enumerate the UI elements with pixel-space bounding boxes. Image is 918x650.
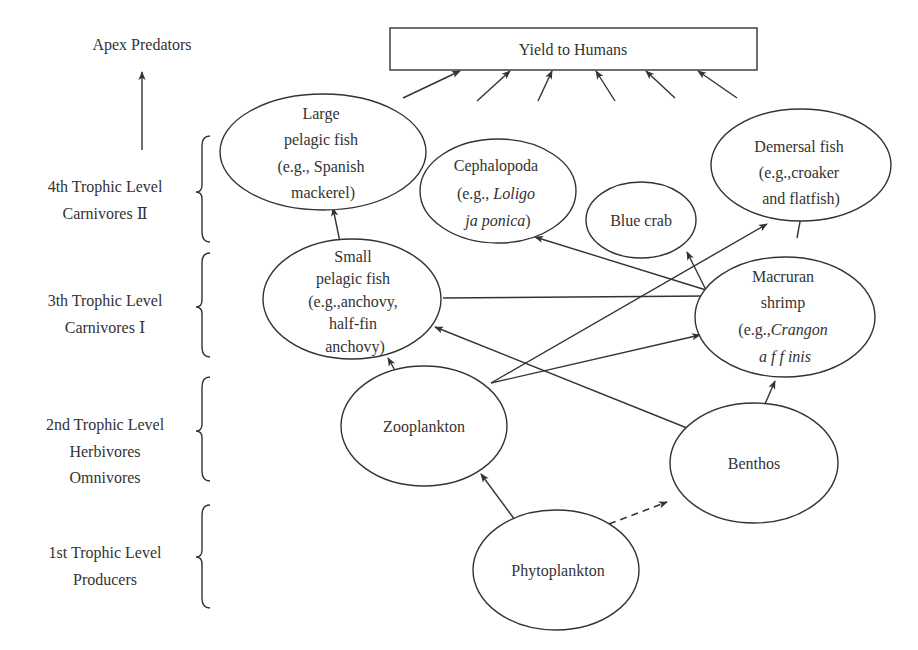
svg-text:2nd Trophic Level: 2nd Trophic Level bbox=[46, 416, 165, 434]
node-benthos: Benthos bbox=[670, 403, 838, 523]
level-brace-1 bbox=[196, 505, 210, 608]
level-brace-3 bbox=[196, 253, 210, 357]
svg-text:Phytoplankton: Phytoplankton bbox=[511, 562, 604, 580]
edge-shrimp-small-line bbox=[443, 296, 707, 298]
yield-label: Yield to Humans bbox=[519, 41, 627, 58]
node-cephalopoda: Cephalopoda (e.g., Loligo ja ponica) bbox=[420, 139, 576, 243]
node-phytoplankton: Phytoplankton bbox=[473, 510, 639, 630]
level-label-1: 1st Trophic Level Producers bbox=[49, 544, 162, 588]
svg-text:Carnivores Ⅱ: Carnivores Ⅱ bbox=[62, 205, 147, 222]
apex-predators-label: Apex Predators bbox=[92, 36, 191, 54]
svg-text:Zooplankton: Zooplankton bbox=[383, 418, 465, 436]
node-macruran-shrimp: Macruran shrimp (e.g.,Crangon a f f inis bbox=[695, 257, 875, 377]
edge-zoo-to-shrimp bbox=[491, 335, 700, 383]
level-brace-4 bbox=[196, 136, 210, 242]
edge-phyto-to-benthos bbox=[609, 502, 667, 524]
svg-text:Herbivores: Herbivores bbox=[69, 443, 140, 460]
node-demersal-fish: Demersal fish (e.g.,croaker and flatfish… bbox=[711, 109, 891, 221]
svg-text:1st Trophic Level: 1st Trophic Level bbox=[49, 544, 162, 562]
node-blue-crab: Blue crab bbox=[586, 182, 696, 258]
level-label-2: 2nd Trophic Level Herbivores Omnivores bbox=[46, 416, 165, 486]
level-label-4: 4th Trophic Level Carnivores Ⅱ bbox=[48, 178, 163, 222]
level-brace-2 bbox=[196, 377, 210, 481]
node-zooplankton: Zooplankton bbox=[341, 366, 507, 486]
svg-text:Cephalopoda (e.g., Lolig: Cephalopoda (e.g., Loligo ja ponica) bbox=[454, 157, 542, 230]
svg-text:4th Trophic Level: 4th Trophic Level bbox=[48, 178, 163, 196]
edge-phyto-to-zoo bbox=[481, 474, 515, 520]
diagram-canvas: Apex Predators Yield to Humans 4th Troph… bbox=[0, 0, 918, 650]
svg-text:Omnivores: Omnivores bbox=[69, 469, 140, 486]
svg-text:Benthos: Benthos bbox=[728, 455, 780, 472]
svg-text:Demersal fish (e.g.,croa: Demersal fish (e.g.,croaker and flatfish… bbox=[754, 138, 847, 208]
node-large-pelagic-fish: Large pelagic fish (e.g., Spanish macker… bbox=[220, 94, 426, 210]
svg-text:3th Trophic Level: 3th Trophic Level bbox=[48, 292, 163, 310]
edge-benthos-to-shrimp bbox=[765, 381, 775, 404]
food-web-diagram: Apex Predators Yield to Humans 4th Troph… bbox=[0, 0, 918, 650]
yield-arrows bbox=[403, 71, 737, 101]
yield-to-humans-box: Yield to Humans bbox=[390, 28, 757, 70]
svg-text:Carnivores Ⅰ: Carnivores Ⅰ bbox=[65, 319, 146, 336]
level-label-3: 3th Trophic Level Carnivores Ⅰ bbox=[48, 292, 163, 336]
svg-text:Blue crab: Blue crab bbox=[610, 212, 672, 229]
node-small-pelagic-fish: Small pelagic fish (e.g.,anchovy, half-f… bbox=[263, 239, 441, 359]
svg-text:Producers: Producers bbox=[73, 571, 137, 588]
